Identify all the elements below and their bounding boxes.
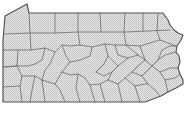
pennsylvania-county-map [0,0,190,113]
state-outline [3,4,183,102]
